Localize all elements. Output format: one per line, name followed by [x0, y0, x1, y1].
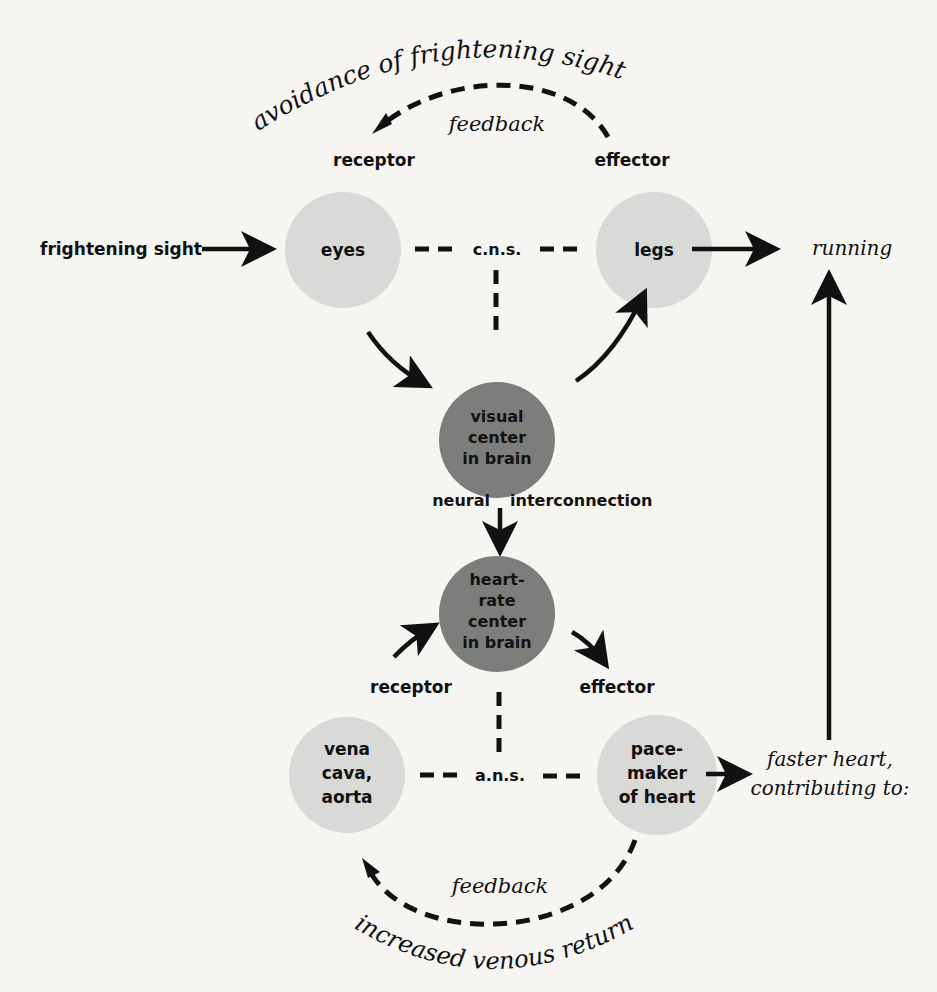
interconnection-label: interconnection — [510, 491, 652, 510]
svg-text:of heart: of heart — [619, 787, 696, 807]
stimulus-label: frightening sight — [40, 239, 202, 259]
svg-text:visual: visual — [470, 407, 523, 426]
faster-heart-label: faster heart, — [765, 747, 893, 771]
svg-text:rate: rate — [478, 591, 515, 610]
svg-text:cava,: cava, — [322, 763, 373, 783]
top-receptor-label: receptor — [333, 150, 415, 170]
reflex-diagram: avoidance of frightening sight feedback … — [0, 0, 937, 992]
avoidance-arc-label: avoidance of frightening sight — [246, 34, 630, 136]
contributing-to-label: contributing to: — [750, 776, 909, 800]
bottom-receptor-label: receptor — [370, 677, 452, 697]
node-heart-rate-center: heart- rate center in brain — [439, 556, 555, 672]
svg-text:legs: legs — [634, 240, 674, 260]
svg-text:aorta: aorta — [321, 787, 372, 807]
node-eyes: eyes — [285, 192, 401, 308]
cns-label: c.n.s. — [473, 240, 522, 259]
svg-text:in brain: in brain — [462, 633, 531, 652]
svg-text:center: center — [468, 612, 526, 631]
svg-text:vena: vena — [324, 739, 370, 759]
response-label: running — [812, 236, 892, 260]
node-vena-cava-aorta: vena cava, aorta — [289, 717, 405, 833]
bottom-feedback-loop: feedback increased venous return — [351, 840, 638, 975]
top-effector-label: effector — [594, 150, 670, 170]
top-feedback-label: feedback — [447, 112, 546, 136]
bottom-feedback-label: feedback — [450, 874, 549, 898]
svg-text:pace-: pace- — [631, 739, 683, 759]
top-feedback-loop: avoidance of frightening sight feedback … — [246, 34, 670, 170]
svg-text:heart-: heart- — [469, 570, 524, 589]
eyes-to-visual-arrow — [368, 332, 425, 384]
receptor-to-heart-center-arrow — [394, 627, 432, 657]
svg-text:eyes: eyes — [321, 240, 365, 260]
increased-venous-return-arc-label: increased venous return — [351, 908, 638, 975]
svg-text:maker: maker — [627, 763, 688, 783]
heart-center-to-effector-arrow — [572, 632, 604, 662]
node-visual-center: visual center in brain — [439, 382, 555, 498]
top-feedback-arrowhead-icon — [372, 113, 392, 134]
neural-label: neural — [432, 491, 490, 510]
ans-label: a.n.s. — [475, 766, 525, 785]
node-pacemaker: pace- maker of heart — [597, 715, 717, 835]
svg-text:in brain: in brain — [462, 449, 531, 468]
bottom-feedback-arrowhead-icon — [362, 858, 380, 878]
visual-to-legs-arrow — [576, 296, 643, 381]
bottom-effector-label: effector — [579, 677, 655, 697]
svg-text:center: center — [468, 428, 526, 447]
